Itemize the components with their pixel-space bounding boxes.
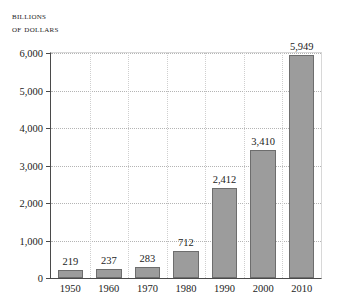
bar-value-label: 2,412 (213, 174, 237, 185)
bar-value-label: 3,410 (251, 136, 275, 147)
x-gridline (128, 53, 129, 278)
bar (58, 270, 83, 278)
x-tick-label: 1980 (175, 283, 196, 294)
bar-value-label: 237 (101, 255, 117, 266)
bar-group: 3,4102000 (250, 53, 275, 278)
y-tick-label: 0 (38, 273, 43, 284)
y-tick-mark (46, 203, 51, 204)
bar (212, 188, 237, 278)
y-tick-mark (46, 166, 51, 167)
x-tick-label: 2010 (291, 283, 312, 294)
bar (173, 251, 198, 278)
y-tick-mark (46, 241, 51, 242)
bar (289, 55, 314, 278)
bar-group: 2371960 (96, 53, 121, 278)
y-tick-mark (46, 53, 51, 54)
x-gridline (167, 53, 168, 278)
bar-chart: Billions of dollars 01,0002,0003,0004,00… (0, 0, 344, 303)
bar-group: 5,9492010 (289, 53, 314, 278)
y-tick-label: 2,000 (19, 198, 43, 209)
bar-group: 2831970 (135, 53, 160, 278)
axis-title-line-2: of dollars (12, 22, 59, 35)
x-gridline (90, 53, 91, 278)
x-tick-label: 1990 (214, 283, 235, 294)
bar-value-label: 219 (62, 256, 78, 267)
x-tick-label: 1950 (60, 283, 81, 294)
x-tick-label: 1970 (137, 283, 158, 294)
bar (96, 269, 121, 278)
x-gridline (205, 53, 206, 278)
bar-group: 2,4121990 (212, 53, 237, 278)
bar-group: 7121980 (173, 53, 198, 278)
x-gridline (282, 53, 283, 278)
y-tick-label: 1,000 (19, 235, 43, 246)
y-tick-label: 6,000 (19, 48, 43, 59)
x-gridline (244, 53, 245, 278)
plot-area: 01,0002,0003,0004,0005,0006,000219195023… (50, 52, 322, 279)
y-tick-label: 3,000 (19, 160, 43, 171)
y-tick-label: 5,000 (19, 85, 43, 96)
chart-axis-title: Billions of dollars (12, 9, 59, 35)
y-tick-label: 4,000 (19, 123, 43, 134)
bar-value-label: 283 (140, 253, 156, 264)
x-tick-label: 2000 (253, 283, 274, 294)
bar (250, 150, 275, 278)
y-tick-mark (46, 91, 51, 92)
bar (135, 267, 160, 278)
bar-value-label: 712 (178, 237, 194, 248)
bar-group: 2191950 (58, 53, 83, 278)
y-tick-mark (46, 278, 51, 279)
y-tick-mark (46, 128, 51, 129)
x-tick-label: 1960 (98, 283, 119, 294)
axis-title-line-1: Billions (12, 9, 59, 22)
bar-value-label: 5,949 (290, 41, 314, 52)
